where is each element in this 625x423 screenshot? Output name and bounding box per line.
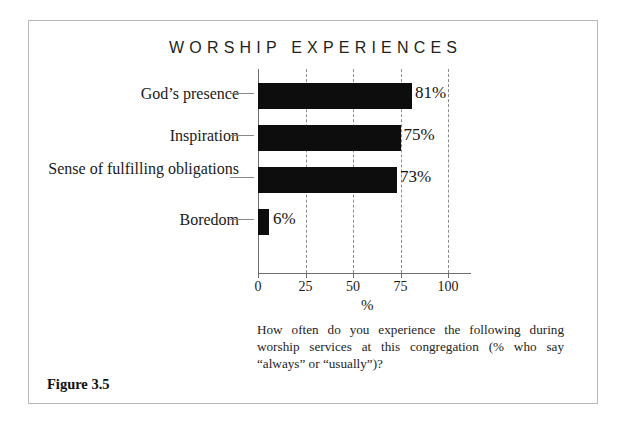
x-tick-25	[306, 273, 307, 278]
category-label-inspiration: Inspiration	[39, 127, 239, 145]
x-axis-line	[258, 273, 471, 274]
x-tick-label-75: 75	[394, 279, 408, 295]
x-tick-100	[448, 273, 449, 278]
figure-frame: WORSHIP EXPERIENCES 81% 75% 73% 6% 0 25 …	[28, 20, 598, 404]
leader-line-sense-of-fulfilling-obligations	[230, 177, 254, 178]
x-axis-title: %	[361, 297, 374, 314]
category-label-boredom: Boredom	[39, 211, 239, 229]
bar-gods-presence	[258, 83, 412, 109]
bar-value-gods-presence: 81%	[415, 83, 446, 103]
x-tick-label-25: 25	[299, 279, 313, 295]
bar-value-sense-of-fulfilling-obligations: 73%	[400, 167, 431, 187]
category-label-sense-of-fulfilling-obligations: Sense of fulfilling obligations	[39, 160, 239, 178]
gridline-100	[448, 69, 449, 273]
bar-sense-of-fulfilling-obligations	[258, 167, 397, 193]
leader-line-gods-presence	[230, 93, 254, 94]
x-tick-0	[258, 273, 259, 278]
x-tick-50	[353, 273, 354, 278]
figure-caption: How often do you experience the followin…	[257, 321, 564, 372]
bar-boredom	[258, 209, 269, 235]
chart-title: WORSHIP EXPERIENCES	[29, 39, 597, 57]
leader-line-inspiration	[230, 135, 254, 136]
x-tick-75	[401, 273, 402, 278]
bar-inspiration	[258, 125, 401, 151]
figure-number: Figure 3.5	[47, 376, 110, 393]
x-tick-label-100: 100	[438, 279, 459, 295]
bar-value-inspiration: 75%	[404, 125, 435, 145]
leader-line-boredom	[230, 219, 254, 220]
x-tick-label-50: 50	[346, 279, 360, 295]
plot-area: 81% 75% 73% 6%	[258, 69, 448, 273]
category-label-gods-presence: God’s presence	[39, 85, 239, 103]
x-tick-label-0: 0	[255, 279, 262, 295]
bar-value-boredom: 6%	[273, 209, 296, 229]
